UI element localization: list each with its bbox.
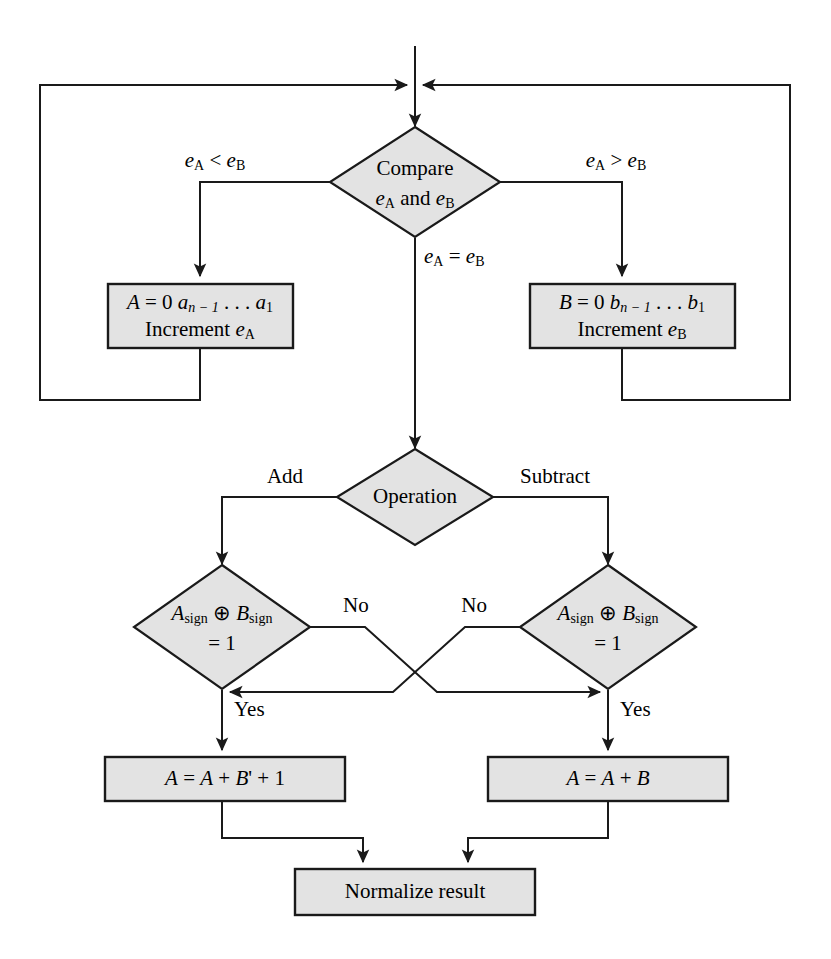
sign-check-right-line2: = 1 [594, 631, 622, 655]
flowchart-canvas: Compare eA and eB A = 0 an − 1 . . . a1 … [0, 0, 831, 959]
node-normalize[interactable]: Normalize result [295, 869, 535, 915]
node-shift-a[interactable]: A = 0 an − 1 . . . a1 Increment eA [108, 284, 293, 348]
node-sign-check-left[interactable]: Asign ⊕ Bsign = 1 [134, 565, 310, 689]
compare-label-line1: Compare [377, 156, 454, 180]
compare-diamond[interactable] [330, 127, 500, 237]
edge-label-no-left: No [343, 593, 369, 617]
edge-operation-subtract [493, 497, 608, 564]
node-shift-b[interactable]: B = 0 bn − 1 . . . b1 Increment eB [530, 284, 735, 348]
shift-b-line2: Increment eB [577, 317, 686, 342]
add-complement-label: A = A + B' + 1 [163, 766, 285, 790]
edge-label-subtract: Subtract [520, 464, 590, 488]
edge-compare-to-shift-a [200, 182, 330, 276]
operation-label: Operation [373, 484, 457, 508]
edge-label-equal: eA = eB [424, 244, 484, 269]
normalize-label: Normalize result [345, 879, 486, 903]
add-plain-label: A = A + B [564, 766, 649, 790]
edge-label-yes-left: Yes [234, 697, 265, 721]
edge-label-greater-than: eA > eB [586, 148, 646, 173]
node-add-plain[interactable]: A = A + B [488, 757, 728, 801]
edge-label-no-right: No [461, 593, 487, 617]
sign-check-left-line2: = 1 [208, 631, 236, 655]
node-add-complement[interactable]: A = A + B' + 1 [105, 757, 345, 801]
edge-label-yes-right: Yes [620, 697, 651, 721]
edge-feedback-right [423, 85, 790, 400]
shift-a-line2: Increment eA [145, 317, 256, 342]
sign-check-left-diamond[interactable] [134, 565, 310, 689]
edge-feedback-left [40, 85, 407, 400]
flowchart-svg: Compare eA and eB A = 0 an − 1 . . . a1 … [0, 0, 831, 959]
edge-add-complement-to-normalize [222, 801, 363, 862]
edge-operation-add [222, 497, 337, 564]
node-operation[interactable]: Operation [337, 449, 493, 545]
edge-label-less-than: eA < eB [185, 148, 245, 173]
sign-check-right-diamond[interactable] [520, 565, 696, 689]
edge-add-plain-to-normalize [468, 801, 608, 862]
node-sign-check-right[interactable]: Asign ⊕ Bsign = 1 [520, 565, 696, 689]
edge-compare-to-shift-b [500, 182, 622, 276]
edge-label-add: Add [267, 464, 304, 488]
node-compare[interactable]: Compare eA and eB [330, 127, 500, 237]
